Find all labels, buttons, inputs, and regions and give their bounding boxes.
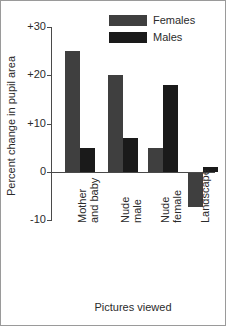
- y-tick-mark: [47, 124, 52, 125]
- x-axis-title: Pictures viewed: [51, 301, 215, 313]
- x-tick-line1: Mother: [76, 189, 88, 223]
- y-tick-label: +10: [27, 117, 46, 129]
- bar-males-nude-male: [123, 138, 138, 172]
- y-tick-label: -10: [30, 213, 46, 225]
- bar-females-nude-female: [148, 148, 163, 172]
- bar-females-mother-and-baby: [65, 51, 80, 172]
- bar-males-nude-female: [163, 85, 178, 172]
- bar-females-nude-male: [108, 75, 123, 172]
- legend-label-females: Females: [153, 14, 195, 26]
- y-tick-mark: [47, 172, 52, 173]
- y-tick-mark: [47, 27, 52, 28]
- bar-males-mother-and-baby: [80, 148, 95, 172]
- y-axis-title: Percent change in pupil area: [3, 1, 19, 251]
- x-tick-line1: Nude: [119, 197, 131, 223]
- chart-figure: Percent change in pupil area Females Mal…: [0, 0, 226, 326]
- y-tick-label: +20: [27, 68, 46, 80]
- x-tick-line1: Landscape: [199, 169, 211, 223]
- legend-item-females: Females: [109, 14, 195, 26]
- x-tick-line2: and baby: [89, 178, 101, 223]
- y-tick-label: +30: [27, 20, 46, 32]
- y-tick-mark: [47, 75, 52, 76]
- x-tick-text: Landscape: [200, 169, 212, 223]
- y-axis-title-text: Percent change in pupil area: [5, 56, 17, 196]
- y-tick-mark: [47, 220, 52, 221]
- x-tick-line1: Nude: [159, 197, 171, 223]
- x-tick-text: Nude female: [160, 190, 183, 223]
- x-tick-text: Mother and baby: [77, 178, 100, 223]
- y-tick-label: 0: [40, 165, 46, 177]
- x-tick-text: Nude male: [120, 197, 143, 223]
- legend-swatch-females-icon: [109, 15, 147, 26]
- x-tick-line2: male: [132, 197, 144, 223]
- x-tick-line2: female: [172, 190, 184, 223]
